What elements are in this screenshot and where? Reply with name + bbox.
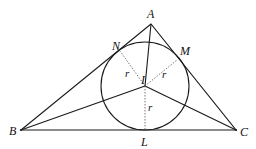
vertex-b-dot — [20, 129, 22, 131]
label-l: L — [140, 135, 148, 149]
label-c: C — [240, 125, 249, 139]
label-m: M — [179, 44, 191, 58]
vertex-c-dot — [235, 129, 237, 131]
radius-label-il: r — [148, 101, 153, 113]
incircle-diagram: A B C I L M N r r r — [0, 0, 256, 149]
diagram-canvas: A B C I L M N r r r — [0, 0, 256, 149]
segment-ai — [145, 24, 151, 86]
segment-ci — [145, 86, 236, 130]
label-b: B — [9, 124, 17, 138]
label-n: N — [111, 39, 121, 53]
radius-label-in: r — [125, 67, 130, 79]
radius-im — [145, 60, 177, 86]
segment-bi — [21, 86, 145, 130]
label-a: A — [146, 7, 155, 21]
radius-label-im: r — [162, 68, 167, 80]
